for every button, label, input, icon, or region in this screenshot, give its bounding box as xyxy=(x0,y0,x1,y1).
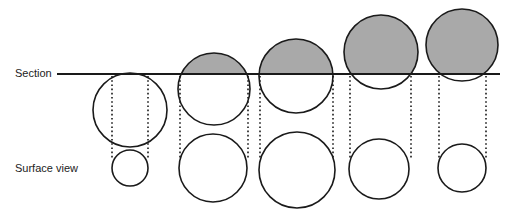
surface-view-label: Surface view xyxy=(15,162,78,174)
surface-circle-2 xyxy=(179,134,247,202)
surface-circle-3 xyxy=(259,132,335,208)
section-circle-1 xyxy=(93,73,167,147)
section-label: Section xyxy=(15,67,52,79)
surface-view-circles xyxy=(112,132,486,208)
section-surface-diagram: Section Surface view xyxy=(0,0,513,218)
surface-circle-4 xyxy=(349,139,409,199)
surface-circle-5 xyxy=(438,144,486,192)
surface-circle-1 xyxy=(112,150,148,186)
section-caps xyxy=(93,9,498,147)
